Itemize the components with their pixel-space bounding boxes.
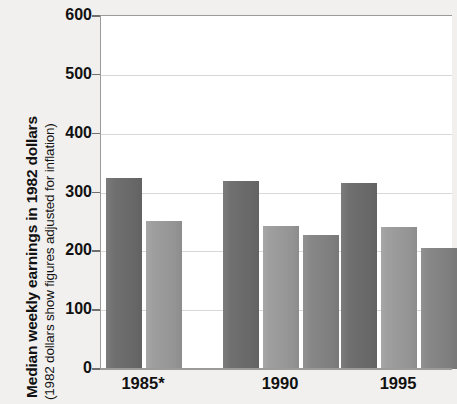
y-axis-title: Median weekly earnings in 1982 dollars: [24, 116, 40, 398]
x-axis-tick-labels: 1985*19901995: [100, 374, 452, 402]
y-axis-tick-mark: [92, 133, 100, 135]
y-axis-tick-label: 600: [65, 6, 92, 24]
y-axis-tick-label: 200: [65, 241, 92, 259]
x-axis-tick-label: 1985*: [121, 374, 164, 393]
y-axis-title-note: (1982 dollars show figures adjusted for …: [43, 123, 57, 400]
y-axis-tick-labels: 6005004003002001000: [56, 0, 98, 404]
bar-chart-figure: Median weekly earnings in 1982 dollars (…: [0, 0, 457, 404]
bar: [421, 248, 457, 369]
bar: [223, 181, 259, 369]
bar: [146, 221, 182, 369]
y-axis-tick-mark: [92, 309, 100, 311]
x-axis-tick-label: 1990: [262, 374, 299, 393]
gridline: [101, 193, 452, 194]
y-axis-tick-label: 300: [65, 183, 92, 201]
y-axis-tick-mark: [92, 250, 100, 252]
y-axis-tick-mark: [92, 368, 100, 370]
y-axis-tick-label: 400: [65, 124, 92, 142]
bar: [106, 178, 142, 369]
gridline: [101, 134, 452, 135]
plot-area: [100, 15, 452, 369]
bar: [381, 227, 417, 369]
gridline: [101, 75, 452, 76]
bar: [303, 235, 339, 369]
bar: [263, 226, 299, 369]
y-axis-tick-label: 0: [83, 359, 92, 377]
bar: [341, 183, 377, 370]
y-axis-tick-label: 100: [65, 300, 92, 318]
y-axis-tick-mark: [92, 192, 100, 194]
y-axis-tick-mark: [92, 74, 100, 76]
y-axis-tick-label: 500: [65, 65, 92, 83]
x-axis-tick-label: 1995: [380, 374, 417, 393]
y-axis-tick-mark: [92, 15, 100, 17]
x-axis-line: [100, 368, 452, 370]
y-axis-title-group: Median weekly earnings in 1982 dollars (…: [0, 0, 56, 404]
